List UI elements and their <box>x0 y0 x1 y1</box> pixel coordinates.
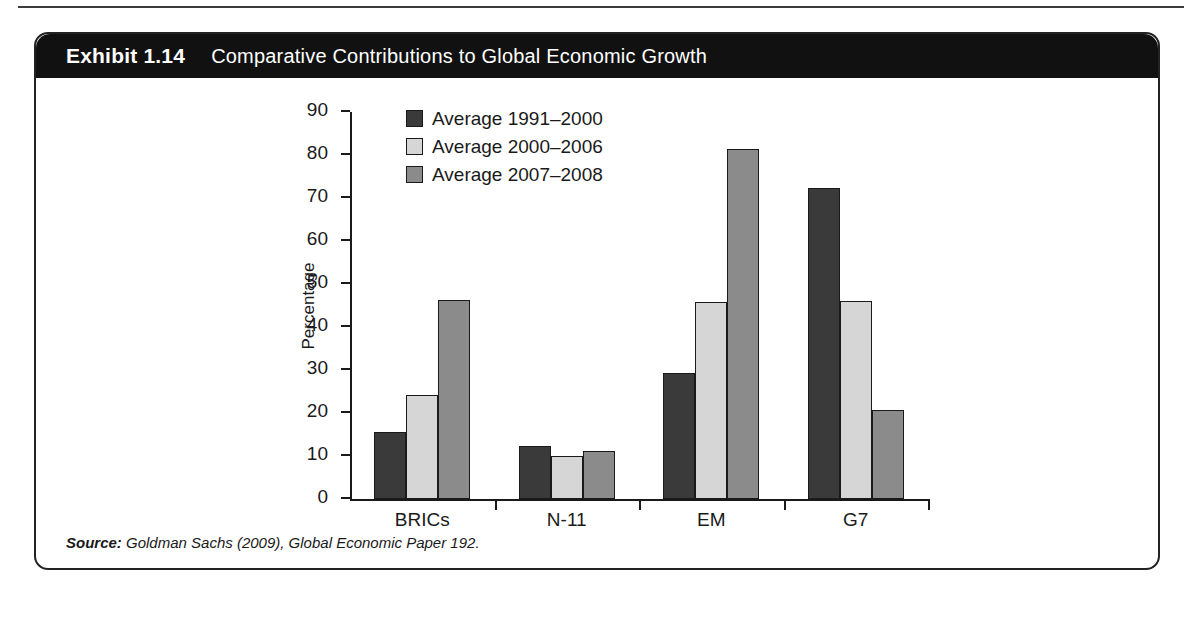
y-axis-tick-label: 20 <box>307 400 328 422</box>
x-axis-category-label: EM <box>663 509 759 531</box>
legend-item[interactable]: Average 2000–2006 <box>406 134 603 159</box>
bar-group: EM <box>663 112 759 499</box>
y-axis-tick-label: 0 <box>317 486 328 508</box>
y-axis-tick: 50 <box>341 282 350 284</box>
y-axis-tick: 70 <box>341 196 350 198</box>
y-axis-tick: 0 <box>341 497 350 499</box>
y-axis-tick-label: 40 <box>307 314 328 336</box>
chart-canvas: Percentage 0102030405060708090 BRICsN-11… <box>36 78 1158 528</box>
y-axis-line <box>350 112 352 499</box>
y-axis-tick-label: 30 <box>307 357 328 379</box>
bar[interactable] <box>872 410 904 499</box>
exhibit-header-bar: Exhibit 1.14 Comparative Contributions t… <box>36 34 1158 78</box>
y-axis-tick-label: 50 <box>307 271 328 293</box>
exhibit-container: Exhibit 1.14 Comparative Contributions t… <box>34 32 1160 570</box>
bar-group: G7 <box>808 112 904 499</box>
legend-swatch <box>406 166 423 183</box>
x-axis-tick <box>495 499 497 510</box>
y-axis-tick: 40 <box>341 325 350 327</box>
y-axis-tick-label: 10 <box>307 443 328 465</box>
exhibit-title: Comparative Contributions to Global Econ… <box>211 45 707 68</box>
x-axis-category-label: N-11 <box>519 509 615 531</box>
bar[interactable] <box>808 188 840 499</box>
y-axis-tick-label: 60 <box>307 228 328 250</box>
y-axis-tick: 20 <box>341 411 350 413</box>
y-axis-tick: 10 <box>341 454 350 456</box>
x-axis-category-label: BRICs <box>374 509 470 531</box>
x-axis-tick <box>928 499 930 510</box>
bar[interactable] <box>727 149 759 499</box>
legend-item[interactable]: Average 2007–2008 <box>406 162 603 187</box>
y-axis-tick: 80 <box>341 153 350 155</box>
legend-label: Average 1991–2000 <box>432 108 603 130</box>
bar[interactable] <box>519 446 551 499</box>
bar[interactable] <box>374 432 406 499</box>
legend-swatch <box>406 110 423 127</box>
bar[interactable] <box>438 300 470 499</box>
bar[interactable] <box>840 301 872 499</box>
bar[interactable] <box>551 456 583 499</box>
bar[interactable] <box>663 373 695 499</box>
x-axis-tick <box>784 499 786 510</box>
y-axis-tick: 90 <box>341 110 350 112</box>
exhibit-number-label: Exhibit 1.14 <box>66 44 185 68</box>
chart-legend: Average 1991–2000Average 2000–2006Averag… <box>406 106 603 187</box>
y-axis-tick: 60 <box>341 239 350 241</box>
source-text: Goldman Sachs (2009), Global Economic Pa… <box>126 534 480 551</box>
bar[interactable] <box>406 395 438 499</box>
y-axis-tick-label: 70 <box>307 185 328 207</box>
source-label: Source: <box>66 534 122 551</box>
y-axis-tick-label: 80 <box>307 142 328 164</box>
x-axis-tick <box>639 499 641 510</box>
y-axis-tick: 30 <box>341 368 350 370</box>
legend-label: Average 2000–2006 <box>432 136 603 158</box>
legend-swatch <box>406 138 423 155</box>
x-axis-category-label: G7 <box>808 509 904 531</box>
legend-item[interactable]: Average 1991–2000 <box>406 106 603 131</box>
bar[interactable] <box>583 451 615 499</box>
legend-label: Average 2007–2008 <box>432 164 603 186</box>
source-note: Source: Goldman Sachs (2009), Global Eco… <box>66 534 480 551</box>
bar[interactable] <box>695 302 727 499</box>
y-axis-tick-label: 90 <box>307 99 328 121</box>
page-top-rule <box>18 6 1184 8</box>
